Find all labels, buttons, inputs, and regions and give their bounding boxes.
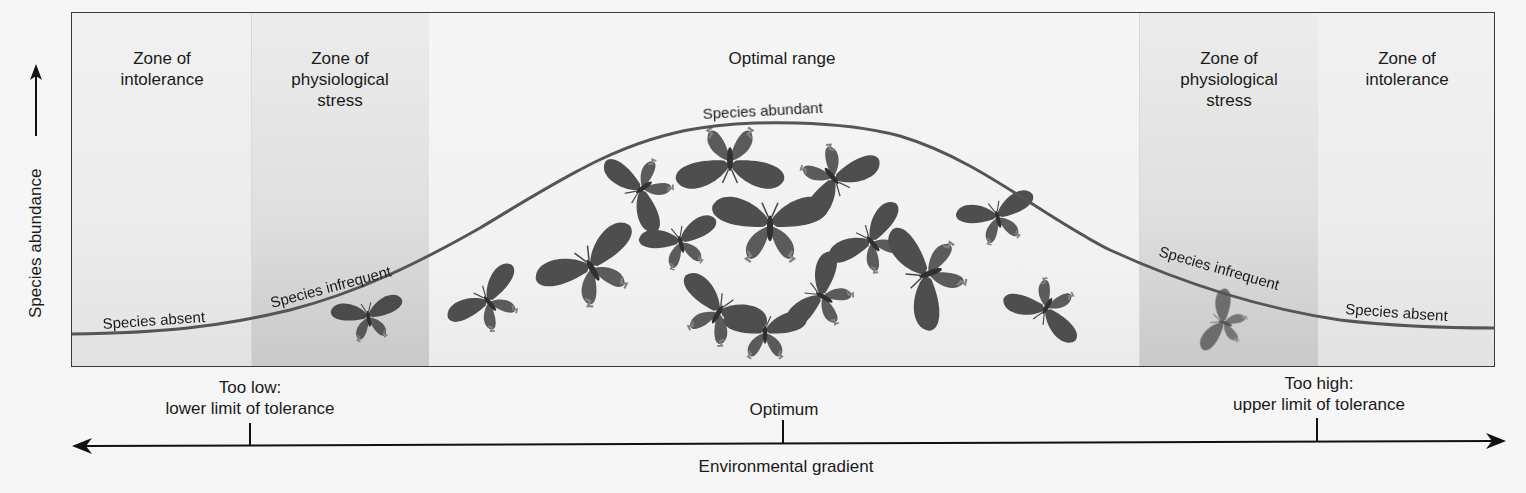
x-axis-arrow: [72, 418, 1506, 454]
curve-label-absent-right: Species absent: [1345, 300, 1449, 324]
curve-label-infrequent-left: Species infrequent: [268, 262, 393, 311]
tick-label-optimum: Optimum: [750, 399, 819, 420]
curve-label-infrequent-right: Species infrequent: [1157, 243, 1282, 294]
butterfly-icon: [330, 125, 1255, 362]
tick-label-high: Too high: upper limit of tolerance: [1233, 373, 1405, 415]
tick-label-low: Too low: lower limit of tolerance: [165, 377, 334, 419]
x-axis-label: Environmental gradient: [699, 456, 874, 477]
curve-label-abundant: Species abundant: [702, 99, 824, 122]
